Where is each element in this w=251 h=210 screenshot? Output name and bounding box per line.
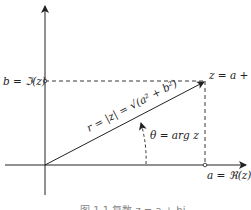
- point-a: [203, 163, 207, 167]
- argument-label: θ = arg z: [150, 129, 199, 141]
- angle-arc: [141, 123, 146, 164]
- vector-z: [45, 82, 204, 165]
- real-part-label: a = ℜ(z): [207, 169, 251, 181]
- point-z-label: z = a + bi: [208, 69, 251, 81]
- imag-part-label: b = ℑ(z): [3, 75, 46, 87]
- complex-plane-diagram: b = ℑ(z) z = a + bi a = ℜ(z) θ = arg z r…: [0, 0, 251, 210]
- modulus-label: r = |z| = √(a² + b²): [84, 77, 179, 136]
- figure-caption: 图 1.1 复数 z = a + bi: [80, 204, 185, 210]
